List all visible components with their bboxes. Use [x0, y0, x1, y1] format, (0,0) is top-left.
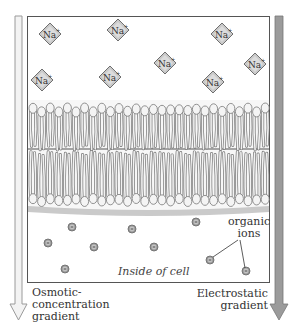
svg-text:+: +: [116, 70, 120, 76]
svg-text:Na: Na: [111, 26, 125, 36]
svg-text:Na: Na: [158, 59, 172, 69]
organic-ion-icon: [61, 265, 69, 273]
svg-text:+: +: [228, 27, 232, 33]
svg-text:+: +: [124, 23, 128, 29]
diagram-svg: Na+Na+Na+Na+Na+Na+Na+Na+: [0, 0, 297, 333]
organic-ion-icon: [242, 267, 250, 275]
svg-text:Na: Na: [215, 30, 229, 40]
svg-text:+: +: [261, 57, 265, 63]
organic-ions-label: organic ions: [226, 216, 272, 240]
organic-ion-icon: [206, 256, 214, 264]
diagram-canvas: Na+Na+Na+Na+Na+Na+Na+Na+ Inside of cell …: [0, 0, 297, 333]
osmotic-label-line3: gradient: [32, 311, 110, 323]
organic-ion-icon: [44, 239, 52, 247]
svg-text:Na: Na: [43, 30, 57, 40]
svg-text:Na: Na: [35, 76, 49, 86]
osmotic-gradient-arrow-icon: [10, 16, 27, 320]
osmotic-gradient-label: Osmotic- concentration gradient: [32, 287, 110, 323]
organic-ions-label-line2: ions: [226, 228, 272, 240]
svg-text:Na: Na: [103, 73, 117, 83]
organic-ion-icon: [128, 225, 136, 233]
svg-text:Na: Na: [206, 78, 220, 88]
organic-ion-icon: [90, 243, 98, 251]
electrostatic-gradient-label: Electrostatic gradient: [196, 288, 268, 312]
electrostatic-gradient-arrow-icon: [270, 16, 288, 320]
lipid-bilayer-membrane: [28, 100, 269, 216]
svg-text:+: +: [48, 73, 52, 79]
electrostatic-label-line2: gradient: [196, 300, 268, 312]
svg-text:Na: Na: [248, 60, 262, 70]
svg-text:+: +: [171, 56, 175, 62]
organic-ion-icon: [150, 243, 158, 251]
organic-ion-icon: [68, 223, 76, 231]
organic-ion-icon: [192, 218, 200, 226]
svg-text:+: +: [219, 75, 223, 81]
inside-of-cell-label: Inside of cell: [118, 266, 190, 278]
svg-text:+: +: [56, 27, 60, 33]
